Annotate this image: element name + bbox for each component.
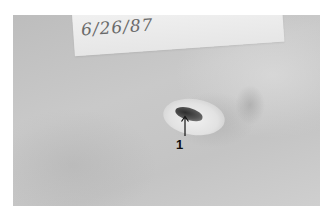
annotation-label: 1 xyxy=(176,137,183,152)
arrow-up-icon xyxy=(179,115,191,137)
clinical-photo: 6/26/87 xyxy=(13,15,320,206)
bruise-area xyxy=(235,85,265,125)
